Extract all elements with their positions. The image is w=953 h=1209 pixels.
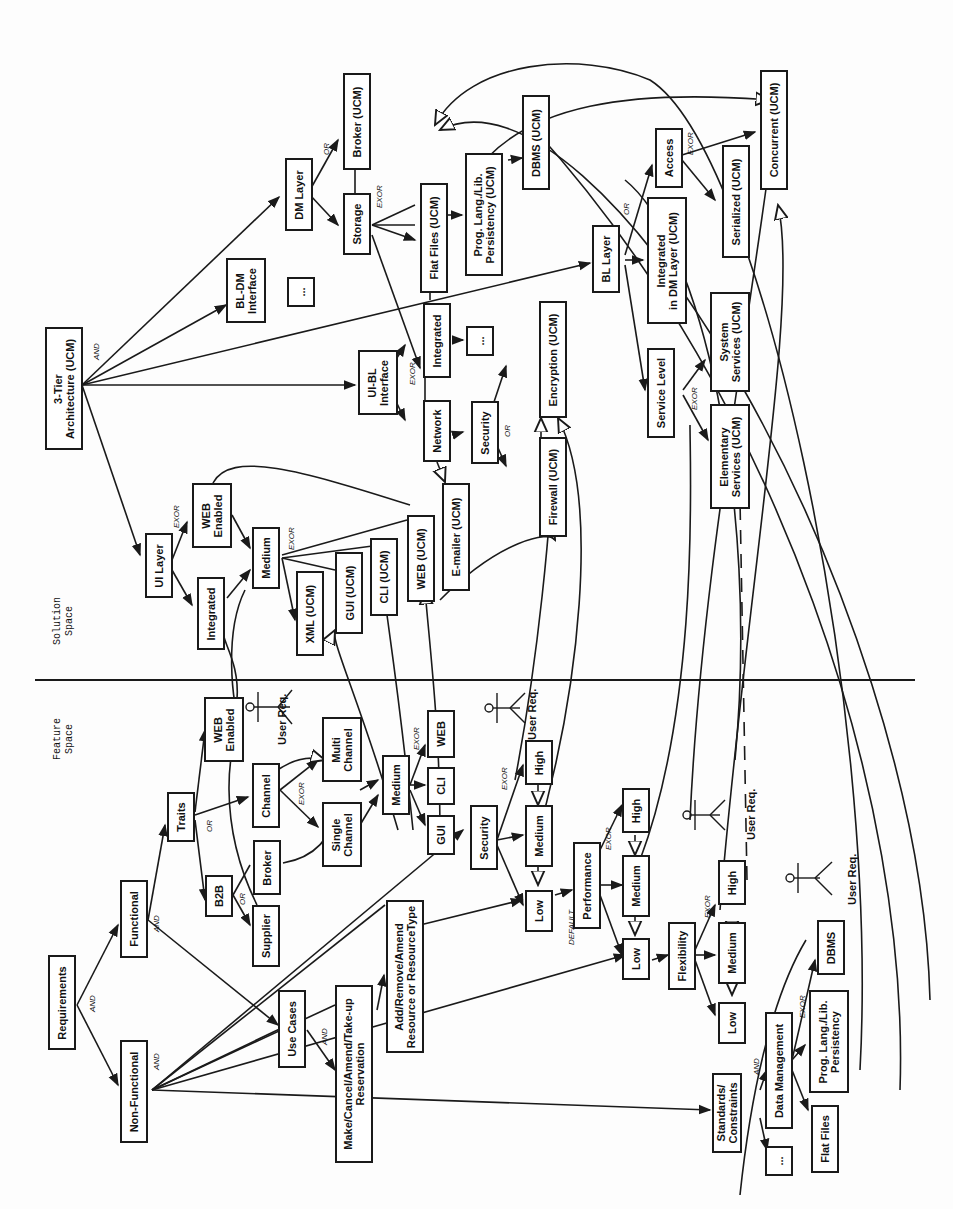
label-exor: EXOR [500,767,509,790]
solution-space-label: Solution Space [52,597,76,645]
node-elementary-services[interactable]: Elementary Services (UCM) [710,404,750,509]
node-use-cases[interactable]: Use Cases [278,990,306,1068]
label-and: AND [320,1028,329,1045]
label-and: AND [152,915,161,932]
label-default: DEFAULT [567,910,576,945]
node-performance-medium[interactable]: Medium [622,855,650,917]
node-single-channel[interactable]: Single Channel [322,802,362,867]
node-standards-constraints[interactable]: Standards/ Constraints [712,1073,742,1153]
node-system-services[interactable]: System Services (UCM) [710,292,750,392]
node-non-functional[interactable]: Non-Functional [120,1040,148,1143]
node-requirements[interactable]: Requirements [48,955,76,1050]
node-integrated-dm-layer[interactable]: Integrated in DM Layer (UCM) [647,197,687,324]
node-make-cancel-reservation[interactable]: Make/Cancel/Amend/Take-up Reservation [335,985,373,1163]
label-or: OR [503,425,512,437]
node-channel[interactable]: Channel [252,763,280,828]
node-medium-solution[interactable]: Medium [252,527,280,589]
label-and: AND [88,995,97,1012]
node-broker[interactable]: Broker [253,840,281,895]
user-req-label: User Req. [526,689,538,740]
node-medium-feature[interactable]: Medium [382,755,410,815]
node-cli-feature[interactable]: CLI [427,767,455,805]
node-flexibility-high[interactable]: High [718,860,746,905]
node-dm-layer[interactable]: DM Layer [285,158,313,231]
node-cli-ucm[interactable]: CLI (UCM) [370,538,398,616]
node-b2b[interactable]: B2B [205,875,233,917]
node-security-low[interactable]: Low [525,890,553,932]
node-security-medium[interactable]: Medium [525,805,553,867]
node-traits[interactable]: Traits [167,792,195,842]
node-broker-ucm[interactable]: Broker (UCM) [343,73,371,170]
label-exor: EXOR [703,895,712,918]
node-security-solution[interactable]: Security [471,401,499,464]
label-or: OR [238,893,247,905]
node-gui-ucm[interactable]: GUI (UCM) [335,552,363,634]
label-or: OR [622,203,631,215]
node-integrated-ui[interactable]: Integrated [197,577,225,650]
node-flat-files-ucm[interactable]: Flat Files (UCM) [420,183,448,293]
node-network[interactable]: Network [423,400,451,462]
node-security-feature[interactable]: Security [470,805,498,870]
label-exor: EXOR [686,132,695,155]
goal-feature-solution-diagram: Solution Space Feature Space Requirement… [0,0,953,1209]
node-storage[interactable]: Storage [343,193,371,255]
node-performance-high[interactable]: High [622,788,650,833]
label-and: AND [752,1058,761,1075]
label-exor: EXOR [375,185,384,208]
node-service-level[interactable]: Service Level [647,348,675,438]
label-exor: EXOR [408,362,417,385]
label-exor: EXOR [287,527,296,550]
node-web-enabled-solution[interactable]: WEB Enabled [192,483,232,548]
label-exor: EXOR [798,995,807,1018]
node-access[interactable]: Access [655,128,683,188]
node-performance[interactable]: Performance [573,842,601,929]
label-exor: EXOR [172,505,181,528]
node-web-enabled-feature[interactable]: WEB Enabled [204,697,244,762]
node-security-high[interactable]: High [525,740,553,785]
node-concurrent-ucm[interactable]: Concurrent (UCM) [760,70,788,190]
node-flexibility-low[interactable]: Low [718,1002,746,1044]
user-req-label: User Req. [846,854,858,905]
node-ui-bl-interface[interactable]: UI-BL Interface [358,350,398,415]
node-bl-dm-interface[interactable]: BL-DM Interface [226,258,266,323]
node-bl-dm-more[interactable]: ... [287,277,315,307]
node-serialized-ucm[interactable]: Serialized (UCM) [722,145,750,258]
node-network-more[interactable]: ... [466,326,494,356]
label-exor: EXOR [604,827,613,850]
node-integrated-network[interactable]: Integrated [423,303,451,378]
node-web-ucm[interactable]: WEB (UCM) [407,515,435,602]
label-exor: EXOR [297,782,306,805]
node-ui-layer[interactable]: UI Layer [145,533,173,598]
node-dbms-ucm[interactable]: DBMS (UCM) [522,95,550,190]
node-supplier[interactable]: Supplier [252,905,280,967]
label-or: OR [322,143,331,155]
label-exor: EXOR [412,727,421,750]
node-emailer-ucm[interactable]: E-mailer (UCM) [442,483,470,591]
node-standards-more[interactable]: ... [765,1146,793,1176]
node-web-feature[interactable]: WEB [427,710,455,758]
node-firewall-ucm[interactable]: Firewall (UCM) [539,437,567,537]
user-req-label: User Req. [276,694,288,745]
node-bl-layer[interactable]: BL Layer [592,225,620,293]
node-flat-files-feature[interactable]: Flat Files [811,1105,839,1173]
node-prog-lang-feature[interactable]: Prog. Lang./Lib. Persistency [809,990,849,1093]
node-gui-feature[interactable]: GUI [427,815,455,855]
label-exor: EXOR [690,387,699,410]
label-and: AND [152,1053,161,1070]
node-functional[interactable]: Functional [120,880,148,958]
node-prog-lang-ucm[interactable]: Prog. Lang./Lib. Persistency (UCM) [465,153,503,276]
user-req-label: User Req. [745,789,757,840]
node-add-remove-resource[interactable]: Add/Remove/Amend Resource or ResourceTyp… [386,900,424,1053]
node-data-management[interactable]: Data Management [765,1012,793,1129]
node-multi-channel[interactable]: Multi Channel [322,717,362,782]
node-encryption-ucm[interactable]: Encryption (UCM) [539,301,567,418]
label-or: OR [205,820,214,832]
node-flexibility[interactable]: Flexibility [668,922,696,990]
node-performance-low[interactable]: Low [622,938,650,980]
node-3-tier-architecture[interactable]: 3-Tier Architecture (UCM) [45,327,83,450]
node-dbms-feature[interactable]: DBMS [817,920,845,975]
label-and: AND [92,343,101,360]
node-flexibility-medium[interactable]: Medium [718,922,746,984]
node-xml-ucm[interactable]: XML (UCM) [296,571,324,656]
feature-space-label: Feature Space [52,718,76,760]
